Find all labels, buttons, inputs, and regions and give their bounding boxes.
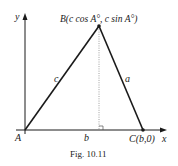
point-a-label: A (15, 133, 21, 143)
side-b-label: b (84, 133, 89, 143)
right-angle-marker-icon (99, 126, 103, 130)
y-axis (23, 13, 28, 134)
x-axis-arrow-icon (160, 128, 167, 133)
x-axis-label: x (162, 134, 166, 144)
point-b-dot-icon (97, 24, 101, 28)
point-c-label: C(b,0) (129, 134, 155, 144)
side-c-line (25, 26, 99, 130)
point-c-dot-icon (141, 128, 145, 132)
y-axis-arrow-icon (23, 13, 28, 20)
y-axis-label: y (15, 12, 19, 22)
side-a-line (99, 26, 143, 130)
side-c-label: c (54, 74, 58, 84)
side-a-label: a (125, 74, 130, 84)
point-b-label: B(c cos A°, c sin A°) (60, 14, 137, 24)
figure-caption: Fig. 10.11 (70, 150, 106, 159)
